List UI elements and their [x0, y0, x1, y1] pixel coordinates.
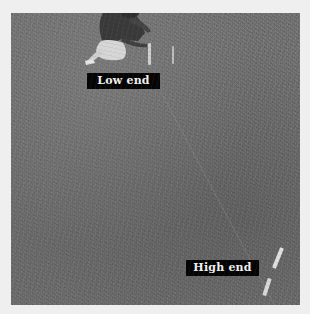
stake-high-end-bottom: [262, 278, 271, 296]
low-end-label: Low end: [87, 73, 160, 89]
stake-low-end: [148, 43, 151, 65]
stake-low-end-2: [172, 46, 174, 64]
high-end-label: High end: [186, 260, 259, 276]
stake-high-end-top: [272, 247, 284, 269]
kneeling-person-figure: [83, 13, 163, 66]
lawn-photo: Low end High end: [11, 13, 300, 305]
